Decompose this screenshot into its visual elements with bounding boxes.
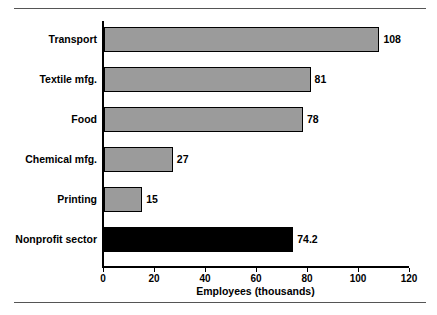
bar-chart-plot-area: 020406080100120 Transport108Textile mfg.… (0, 0, 437, 315)
bar-category-label: Food (71, 107, 97, 132)
bar (104, 27, 379, 52)
bar-row: Textile mfg.81 (0, 67, 437, 92)
bar-row: Transport108 (0, 27, 437, 52)
x-axis-tick (205, 268, 206, 272)
x-axis-tick-label: 40 (185, 273, 225, 285)
bar-category-label: Transport (49, 27, 97, 52)
bar-value-label: 15 (142, 187, 158, 212)
bar-value-label: 78 (303, 107, 319, 132)
x-axis-tick-label: 80 (287, 273, 327, 285)
bar-value-label: 81 (311, 67, 327, 92)
x-axis-tick-label: 120 (389, 273, 429, 285)
x-axis-tick (409, 268, 410, 272)
bar-row: Food78 (0, 107, 437, 132)
bar-value-label: 74.2 (293, 227, 317, 252)
x-axis-tick-label: 100 (338, 273, 378, 285)
x-axis-tick (256, 268, 257, 272)
x-axis-tick (358, 268, 359, 272)
x-axis-tick (103, 268, 104, 272)
x-axis-tick-label: 20 (134, 273, 174, 285)
bar-row: Printing15 (0, 187, 437, 212)
bar (104, 147, 173, 172)
bar (104, 67, 311, 92)
bar-row: Chemical mfg.27 (0, 147, 437, 172)
bar (104, 227, 293, 252)
bar-value-label: 27 (173, 147, 189, 172)
x-axis-tick (154, 268, 155, 272)
x-axis-tick-label: 60 (236, 273, 276, 285)
bar-value-label: 108 (379, 27, 401, 52)
bar (104, 187, 142, 212)
bar-category-label: Chemical mfg. (25, 147, 97, 172)
x-axis-title: Employees (thousands) (102, 285, 409, 297)
bar-category-label: Nonprofit sector (15, 227, 97, 252)
bar-category-label: Printing (57, 187, 97, 212)
bar-row: Nonprofit sector74.2 (0, 227, 437, 252)
bar-category-label: Textile mfg. (39, 67, 97, 92)
x-axis-tick (307, 268, 308, 272)
bar (104, 107, 303, 132)
x-axis-tick-label: 0 (83, 273, 123, 285)
chart-figure: 020406080100120 Transport108Textile mfg.… (0, 0, 437, 315)
